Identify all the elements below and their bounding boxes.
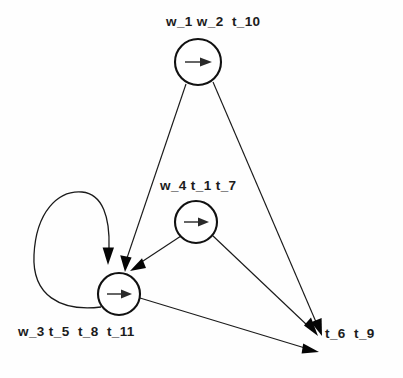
node-bottom-left[interactable]	[98, 273, 140, 315]
node-middle[interactable]	[175, 201, 217, 243]
sink-label-bottom-right: t_6 t_9	[325, 326, 375, 341]
edge-top-to-bottom-right	[213, 82, 322, 336]
node-label-top: w_1 w_2 t_10	[166, 14, 261, 29]
diagram-canvas: w_1 w_2 t_10 w_4 t_1 t_7 w_3 t_5 t_8 t_1…	[0, 0, 403, 378]
node-top[interactable]	[175, 39, 221, 85]
edge-bottom-left-to-bottom-right	[140, 298, 319, 354]
node-label-middle: w_4 t_1 t_7	[160, 178, 236, 193]
edge-middle-to-bottom-right	[212, 235, 318, 336]
node-label-bottom-left: w_3 t_5 t_8 t_11	[18, 324, 135, 339]
edge-middle-to-bottom-left	[130, 236, 181, 271]
